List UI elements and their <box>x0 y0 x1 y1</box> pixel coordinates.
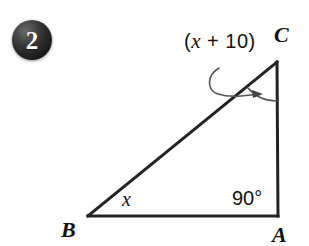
angle-label-c-constant: 10 <box>225 30 248 52</box>
angle-label-a: 90° <box>232 188 262 208</box>
vertex-label-c: C <box>274 24 289 46</box>
angle-label-c-variable: x <box>191 29 201 53</box>
triangle-svg <box>0 0 309 246</box>
angle-label-c-close-paren: ) <box>249 30 256 52</box>
side-vertical-AC <box>277 62 278 216</box>
angle-label-b: x <box>122 189 131 209</box>
angle-label-c: (x + 10) <box>184 31 256 52</box>
vertex-label-b: B <box>61 219 76 241</box>
angle-label-c-operator: + <box>207 30 219 52</box>
geometry-figure: 2 C B A (x + 10) x 90° <box>0 0 309 246</box>
vertex-label-a: A <box>272 224 287 246</box>
angle-pointer-arrow-curve <box>209 68 257 96</box>
